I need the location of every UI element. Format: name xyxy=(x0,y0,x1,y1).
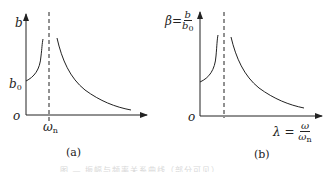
lambda-den-sub: n xyxy=(306,135,311,144)
panel-a-x-tick-omega-n: ωn xyxy=(43,121,58,135)
panel-a-y-axis-label: b xyxy=(15,17,23,29)
panel-b-origin-label: o xyxy=(188,111,195,123)
panel-b-curve-left xyxy=(200,35,218,82)
panel-b-y-axis-label: β=bb0 xyxy=(165,10,194,33)
b0-main: b xyxy=(9,77,17,91)
panel-a-curve-left xyxy=(26,39,43,81)
omega-main: ω xyxy=(43,120,53,134)
lambda-symbol: λ = xyxy=(273,125,294,139)
panel-a-plot xyxy=(26,12,147,124)
panel-b-plot xyxy=(200,12,322,118)
figure-caption: 图 — 振幅与频率关系曲线（部分可见） xyxy=(60,164,220,172)
beta-symbol: β= xyxy=(165,14,182,28)
panel-b-curve-right xyxy=(231,37,304,108)
lambda-fraction: ωωn xyxy=(298,121,311,144)
beta-den-sub: 0 xyxy=(188,24,193,33)
panel-b-x-axis-label: λ = ωωn xyxy=(273,121,312,144)
panel-a-curve-right xyxy=(57,38,131,110)
panel-a-origin-label: o xyxy=(13,110,20,122)
panel-b-caption: (b) xyxy=(254,149,270,160)
panel-a-caption: (a) xyxy=(66,147,81,158)
beta-fraction: bb0 xyxy=(182,10,194,33)
b0-sub: 0 xyxy=(17,83,22,92)
omega-sub: n xyxy=(53,126,58,135)
panel-a-y-tick-b0: b0 xyxy=(9,78,22,92)
